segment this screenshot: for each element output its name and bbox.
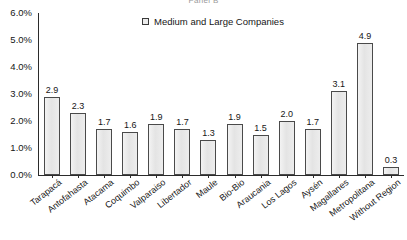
bar-value-label: 1.7 — [98, 118, 111, 127]
y-axis-tick-3: 3.0% — [0, 89, 32, 99]
y-axis-tick-2: 2.0% — [0, 116, 32, 126]
bar-value-label: 3.1 — [333, 80, 346, 89]
bar-column[interactable]: 1.7 — [96, 118, 112, 175]
bar-rect[interactable] — [305, 129, 321, 175]
bar-column[interactable]: 0.3 — [383, 156, 399, 175]
panel-title: Panel B — [0, 0, 407, 5]
bar-rect[interactable] — [44, 97, 60, 175]
bar-value-label: 1.7 — [306, 118, 319, 127]
bar-value-label: 1.5 — [254, 124, 267, 133]
x-axis-tick-mark — [208, 175, 209, 178]
bar-value-label: 1.3 — [202, 129, 215, 138]
bar-rect[interactable] — [331, 91, 347, 175]
y-axis-tick-5: 5.0% — [0, 35, 32, 45]
x-axis-tick-mark — [52, 175, 53, 178]
bar-value-label: 2.3 — [72, 102, 85, 111]
bar-rect[interactable] — [122, 132, 138, 175]
bar-value-label: 0.3 — [385, 156, 398, 165]
x-axis-tick-mark — [182, 175, 183, 178]
bar-rect[interactable] — [357, 43, 373, 175]
bar-column[interactable]: 1.6 — [122, 121, 138, 175]
bar-rect[interactable] — [70, 113, 86, 175]
bar-column[interactable]: 1.3 — [200, 129, 216, 175]
bar-column[interactable]: 1.9 — [148, 113, 164, 175]
bar-column[interactable]: 4.9 — [357, 32, 373, 175]
y-axis-tick-1: 1.0% — [0, 143, 32, 153]
bar-rect[interactable] — [96, 129, 112, 175]
bar-rect[interactable] — [253, 135, 269, 176]
bar-value-label: 2.9 — [46, 86, 59, 95]
bar-column[interactable]: 1.7 — [174, 118, 190, 175]
plot-area: 2.92.31.71.61.91.71.31.91.52.01.73.14.90… — [39, 13, 404, 175]
x-axis-tick-mark — [104, 175, 105, 178]
bar-column[interactable]: 2.9 — [44, 86, 60, 175]
bar-rect[interactable] — [279, 121, 295, 175]
x-axis-tick-mark — [365, 175, 366, 178]
bar-column[interactable]: 2.0 — [279, 110, 295, 175]
x-axis-tick-mark — [391, 175, 392, 178]
y-axis-tick-4: 4.0% — [0, 62, 32, 72]
x-axis-tick-mark — [261, 175, 262, 178]
x-axis-tick-mark — [130, 175, 131, 178]
y-axis-tick-0: 0.0% — [0, 170, 32, 180]
x-axis-tick-mark — [78, 175, 79, 178]
bar-rect[interactable] — [383, 167, 399, 175]
bar-rect[interactable] — [227, 124, 243, 175]
bar-value-label: 1.7 — [176, 118, 189, 127]
bar-column[interactable]: 1.9 — [227, 113, 243, 175]
x-axis-tick-mark — [235, 175, 236, 178]
bar-rect[interactable] — [174, 129, 190, 175]
x-axis-tick-mark — [287, 175, 288, 178]
bar-column[interactable]: 1.5 — [253, 124, 269, 176]
bar-column[interactable]: 3.1 — [331, 80, 347, 175]
bar-chart-panel: Panel B Medium and Large Companies 0.0%1… — [0, 0, 407, 240]
bar-value-label: 4.9 — [359, 32, 372, 41]
x-axis-line — [38, 175, 404, 176]
bar-value-label: 1.9 — [228, 113, 241, 122]
bar-column[interactable]: 2.3 — [70, 102, 86, 175]
x-axis-tick-mark — [156, 175, 157, 178]
y-axis-tick-6: 6.0% — [0, 8, 32, 18]
x-axis-tick-mark — [339, 175, 340, 178]
x-axis-tick-6: Maule — [195, 178, 220, 200]
bar-value-label: 1.9 — [150, 113, 163, 122]
x-axis-tick-mark — [313, 175, 314, 178]
bar-column[interactable]: 1.7 — [305, 118, 321, 175]
bar-rect[interactable] — [148, 124, 164, 175]
bar-value-label: 2.0 — [280, 110, 293, 119]
bar-value-label: 1.6 — [124, 121, 137, 130]
bar-rect[interactable] — [200, 140, 216, 175]
